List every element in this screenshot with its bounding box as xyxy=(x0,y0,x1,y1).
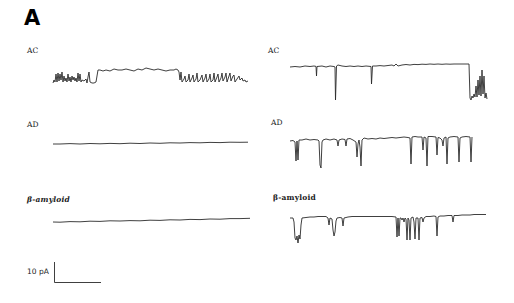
left-trace-ac xyxy=(53,68,248,83)
right-trace-beta-amyloid xyxy=(290,215,486,244)
right-trace-ad xyxy=(290,137,472,169)
left-trace-ad xyxy=(53,142,248,144)
current-traces xyxy=(0,0,514,303)
left-trace-beta-amyloid xyxy=(53,218,250,222)
right-trace-ac xyxy=(290,64,487,100)
